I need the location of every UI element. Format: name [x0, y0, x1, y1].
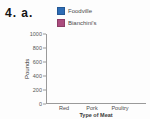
worksheet-figure: 4. a. FoodvilleBianchini's Pounds 020040… — [0, 0, 150, 119]
question-label: 4. a. — [5, 6, 33, 20]
y-tick-label-1000: 1000 — [29, 31, 42, 37]
x-axis-labels: RedPorkPoultry — [46, 106, 146, 112]
x-tick-label-red: Red — [52, 106, 76, 112]
y-tick-label-800: 800 — [29, 45, 42, 51]
y-tick-label-200: 200 — [29, 87, 42, 93]
y-tick-label-400: 400 — [29, 73, 42, 79]
plot-area — [46, 34, 146, 104]
legend-item-bianchinis: Bianchini's — [57, 19, 97, 27]
legend-swatch-foodville — [57, 7, 65, 15]
y-tick-label-600: 600 — [29, 59, 42, 65]
x-tick-label-pork: Pork — [80, 106, 104, 112]
y-tick-label-0: 0 — [29, 101, 42, 107]
legend-label-bianchinis: Bianchini's — [68, 20, 97, 26]
x-axis-title: Type of Meat — [46, 113, 146, 119]
y-axis: 02004006008001000 — [29, 34, 46, 104]
legend-swatch-bianchinis — [57, 19, 65, 27]
legend-item-foodville: Foodville — [57, 7, 97, 15]
legend-label-foodville: Foodville — [68, 8, 92, 14]
x-tick-label-poultry: Poultry — [108, 106, 132, 112]
chart-legend: FoodvilleBianchini's — [57, 7, 97, 27]
